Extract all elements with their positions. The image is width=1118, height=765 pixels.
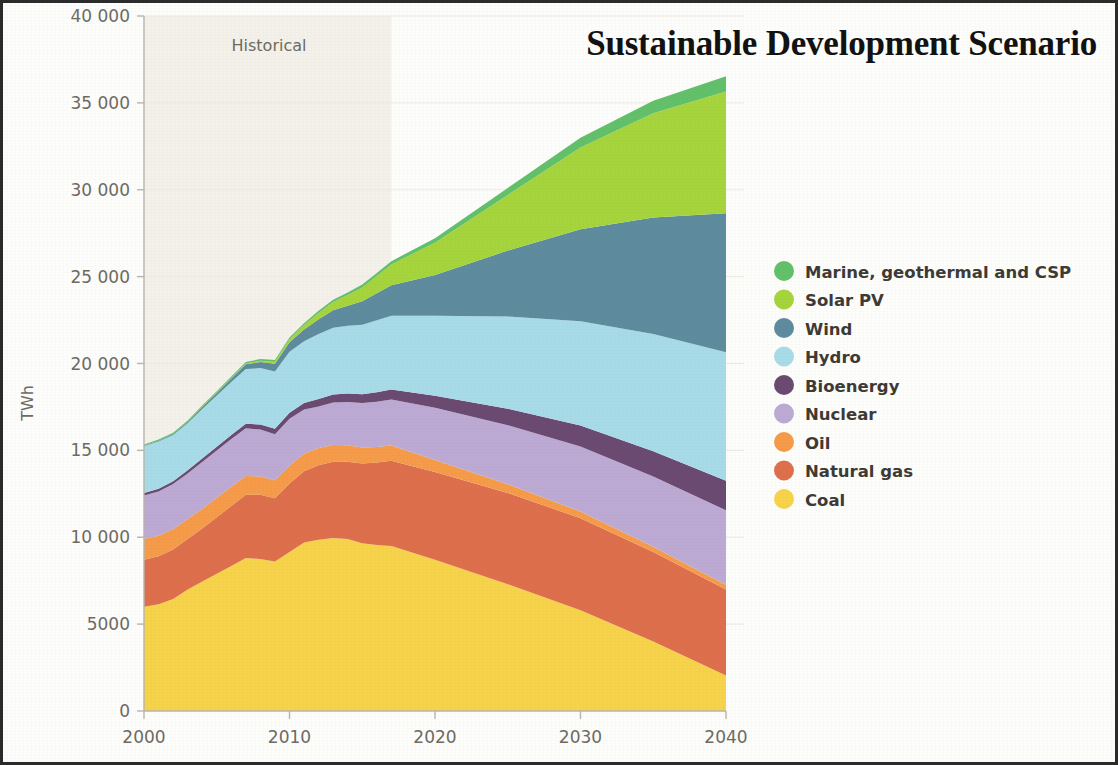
y-tick-label: 30 000 — [71, 180, 130, 200]
legend-swatch-natural-gas[interactable] — [774, 461, 794, 481]
chart-title: Sustainable Development Scenario — [586, 24, 1097, 63]
legend-swatch-oil[interactable] — [774, 432, 794, 452]
y-tick-label: 35 000 — [71, 93, 130, 113]
legend-label[interactable]: Bioenergy — [805, 377, 900, 396]
legend: Marine, geothermal and CSPSolar PVWindHy… — [774, 261, 1071, 510]
legend-label[interactable]: Hydro — [805, 348, 861, 367]
y-tick-label: 5000 — [87, 614, 130, 634]
x-axis-tick-labels: 20002010202020302040 — [122, 727, 747, 747]
legend-label[interactable]: Natural gas — [805, 462, 913, 481]
x-tick-label: 2010 — [268, 727, 311, 747]
legend-swatch-coal[interactable] — [774, 489, 794, 509]
x-tick-label: 2030 — [559, 727, 602, 747]
y-tick-label: 25 000 — [71, 267, 130, 287]
x-tick-label: 2020 — [413, 727, 456, 747]
y-tick-label: 20 000 — [71, 354, 130, 374]
legend-label[interactable]: Marine, geothermal and CSP — [805, 263, 1071, 282]
y-axis-title: TWh — [18, 385, 37, 422]
y-axis-tick-labels: 0500010 00015 00020 00025 00030 00035 00… — [71, 6, 130, 721]
legend-swatch-nuclear[interactable] — [774, 404, 794, 424]
y-tick-label: 40 000 — [71, 6, 130, 26]
legend-label[interactable]: Oil — [805, 434, 830, 453]
legend-swatch-solar-pv[interactable] — [774, 290, 794, 310]
stacked-area-chart: 0500010 00015 00020 00025 00030 00035 00… — [3, 3, 1115, 762]
y-tick-label: 15 000 — [71, 440, 130, 460]
legend-swatch-marine-geothermal-and-csp[interactable] — [774, 261, 794, 281]
y-tick-label: 0 — [119, 701, 130, 721]
y-tick-label: 10 000 — [71, 527, 130, 547]
legend-swatch-hydro[interactable] — [774, 347, 794, 367]
legend-label[interactable]: Solar PV — [805, 291, 884, 310]
legend-swatch-bioenergy[interactable] — [774, 375, 794, 395]
legend-label[interactable]: Coal — [805, 491, 845, 510]
legend-label[interactable]: Nuclear — [805, 405, 877, 424]
chart-figure: 0500010 00015 00020 00025 00030 00035 00… — [0, 0, 1118, 765]
legend-label[interactable]: Wind — [805, 320, 852, 339]
historical-label: Historical — [232, 36, 307, 55]
x-tick-label: 2000 — [122, 727, 165, 747]
x-tick-label: 2040 — [704, 727, 747, 747]
legend-swatch-wind[interactable] — [774, 318, 794, 338]
